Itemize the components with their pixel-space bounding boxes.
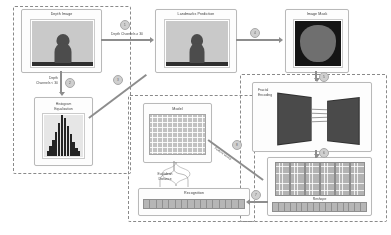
fractal-link <box>312 113 327 114</box>
vector-cell <box>201 200 206 208</box>
node-model[interactable]: Model <box>143 103 212 163</box>
histogram-bar <box>61 115 63 156</box>
vector-cell <box>355 203 360 211</box>
reshape-block <box>321 163 334 195</box>
vector-cell <box>279 203 284 211</box>
vector-cell <box>182 200 187 208</box>
reshape-block <box>276 163 289 195</box>
node-histogram-equalization[interactable]: Histogram Equalization <box>34 97 93 166</box>
arrow-depth-to-histogram <box>60 71 62 93</box>
arrowhead-reshape-to-recognition <box>246 199 250 205</box>
vector-cell <box>291 203 296 211</box>
vector-cell <box>176 200 181 208</box>
vector-cell <box>297 203 302 211</box>
reshape-block <box>351 163 364 195</box>
vector-cell <box>361 203 366 211</box>
badge-4[interactable]: 4 <box>250 28 260 38</box>
histogram-bar <box>47 151 49 156</box>
histogram-bar <box>58 123 60 156</box>
histogram-bar <box>70 134 72 156</box>
node-fractal-encoding[interactable]: Fractal Encoding <box>252 82 372 152</box>
model-feature-grid <box>150 115 205 154</box>
histogram-bar <box>67 126 69 156</box>
node-depth-image[interactable]: Depth Image <box>21 9 102 73</box>
vector-cell <box>169 200 174 208</box>
node-landmarks-prediction[interactable]: Landmarks Prediction <box>155 9 237 73</box>
vector-cell <box>349 203 354 211</box>
vector-cell <box>144 200 149 208</box>
recognition-title: Recognition <box>139 192 249 196</box>
landmarks-title: Landmarks Prediction <box>156 13 236 17</box>
mask-blob <box>300 25 336 62</box>
vector-cell <box>213 200 218 208</box>
vector-cell <box>232 200 237 208</box>
histogram-bar <box>52 140 54 156</box>
histogram-bar <box>78 151 80 156</box>
arrowhead-depth-to-landmarks <box>150 37 154 43</box>
histogram-bar <box>72 142 74 156</box>
vector-cell <box>150 200 155 208</box>
reshape-feature-vector <box>273 203 366 211</box>
depth-image-title: Depth Image <box>22 13 101 17</box>
image-mask-title: Image Mask <box>286 13 348 17</box>
landmarks-silhouette-body <box>190 43 205 63</box>
vector-cell <box>207 200 212 208</box>
node-image-mask[interactable]: Image Mask <box>285 9 349 73</box>
vector-cell <box>273 203 278 211</box>
fractal-link <box>312 121 327 122</box>
vector-cell <box>226 200 231 208</box>
image-mask-thumbnail <box>294 20 342 67</box>
histogram-bar <box>64 118 66 156</box>
vector-cell <box>188 200 193 208</box>
edge-label-euclidean-line2: Distance <box>143 177 187 181</box>
fractal-plane-source <box>278 94 311 144</box>
histogram-bar <box>55 132 57 156</box>
arrowhead-landmarks-to-mask <box>279 37 283 43</box>
reshape-block <box>306 163 319 195</box>
vector-cell <box>326 203 331 211</box>
badge-1[interactable]: 1 <box>120 20 130 30</box>
landmarks-thumbnail <box>165 20 229 67</box>
vector-cell <box>332 203 337 211</box>
badge-5[interactable]: 5 <box>319 72 329 82</box>
badge-7[interactable]: 7 <box>251 190 261 200</box>
vector-cell <box>314 203 319 211</box>
diagram-canvas: Depth Image Landmarks Prediction Image M… <box>0 0 391 235</box>
badge-3[interactable]: 3 <box>113 75 123 85</box>
badge-2[interactable]: 2 <box>65 78 75 88</box>
node-reshape[interactable]: Reshape <box>267 157 372 216</box>
vector-cell <box>195 200 200 208</box>
depth-image-thumbnail <box>31 20 94 67</box>
reshape-block <box>291 163 304 195</box>
edge-label-depth-ge: Depth Channels ≥ 30 <box>104 32 150 36</box>
badge-6[interactable]: 6 <box>319 148 329 158</box>
histogram-bar <box>75 148 77 156</box>
histogram-bar <box>49 146 51 155</box>
fractal-plane-target <box>328 98 359 144</box>
model-title: Model <box>144 108 211 112</box>
vector-cell <box>220 200 225 208</box>
histogram-title-line2: Equalization <box>35 107 92 111</box>
reshape-title: Reshape <box>268 197 371 201</box>
fractal-link <box>312 117 327 118</box>
vector-cell <box>157 200 162 208</box>
vector-cell <box>308 203 313 211</box>
recognition-feature-vector <box>144 200 244 208</box>
reshape-block <box>336 163 349 195</box>
histogram-chart <box>43 114 84 158</box>
fractal-link <box>312 109 327 110</box>
depth-silhouette-body <box>54 43 71 63</box>
arrow-depth-to-landmarks <box>101 39 151 41</box>
arrow-landmarks-to-mask <box>236 39 280 41</box>
vector-cell <box>163 200 168 208</box>
vector-cell <box>239 200 244 208</box>
arrow-reshape-to-recognition <box>250 201 268 203</box>
vector-cell <box>285 203 290 211</box>
node-recognition[interactable]: Recognition <box>138 188 250 216</box>
edge-label-depth-lt-line2: Channels < 30 <box>22 81 58 85</box>
vector-cell <box>344 203 349 211</box>
vector-cell <box>320 203 325 211</box>
badge-8[interactable]: 8 <box>232 140 242 150</box>
arrowhead-depth-to-histogram <box>59 92 65 96</box>
vector-cell <box>338 203 343 211</box>
